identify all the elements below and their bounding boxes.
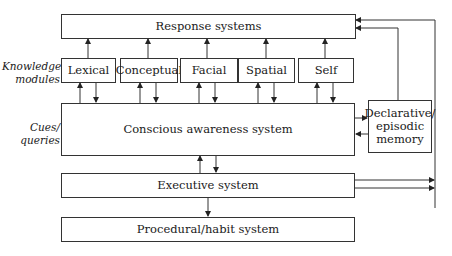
- spatial-module-box: Spatial: [238, 58, 295, 83]
- self-label: Self: [315, 64, 338, 77]
- cues-queries-label: Cues/ queries: [2, 121, 60, 146]
- conceptual-label: Conceptual: [116, 64, 182, 77]
- declarative-memory-box: Declarative/ episodic memory: [368, 100, 432, 153]
- conceptual-module-box: Conceptual: [120, 58, 178, 83]
- procedural-habit-label: Procedural/habit system: [137, 223, 279, 236]
- procedural-habit-box: Procedural/habit system: [61, 217, 355, 242]
- executive-system-box: Executive system: [61, 173, 355, 198]
- lexical-module-box: Lexical: [61, 58, 116, 83]
- knowledge-modules-label: Knowledge modules: [2, 60, 60, 85]
- conscious-awareness-label: Conscious awareness system: [123, 123, 292, 136]
- facial-label: Facial: [192, 64, 227, 77]
- spatial-label: Spatial: [246, 64, 287, 77]
- response-systems-label: Response systems: [156, 20, 262, 33]
- declarative-memory-label: Declarative/ episodic memory: [365, 107, 436, 147]
- facial-module-box: Facial: [180, 58, 238, 83]
- executive-system-label: Executive system: [157, 179, 258, 192]
- lexical-label: Lexical: [68, 64, 110, 77]
- self-module-box: Self: [298, 58, 354, 83]
- response-systems-box: Response systems: [61, 14, 356, 39]
- conscious-awareness-box: Conscious awareness system: [61, 103, 355, 156]
